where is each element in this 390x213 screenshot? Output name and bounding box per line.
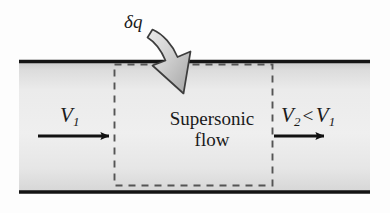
supersonic-flow-line1: Supersonic — [170, 108, 254, 129]
inlet-velocity-label: V1 — [60, 104, 80, 129]
outlet-velocity-label: V2<V1 — [281, 104, 335, 129]
supersonic-flow-label: Supersonicflow — [152, 108, 272, 151]
supersonic-flow-line2: flow — [152, 129, 272, 150]
outlet-velocity-symbol: V — [281, 103, 294, 127]
inlet-velocity-subscript: 1 — [73, 114, 80, 129]
inlet-velocity-symbol: V — [60, 103, 73, 127]
comparison-operator: < — [301, 105, 316, 126]
supersonic-duct-diagram: δq V1 V2<V1 Supersonicflow — [0, 0, 390, 213]
outlet-compare-symbol: V — [316, 103, 329, 127]
outlet-compare-subscript: 1 — [329, 114, 336, 129]
heat-flux-label: δq — [124, 11, 143, 32]
outlet-velocity-subscript: 2 — [294, 114, 301, 129]
